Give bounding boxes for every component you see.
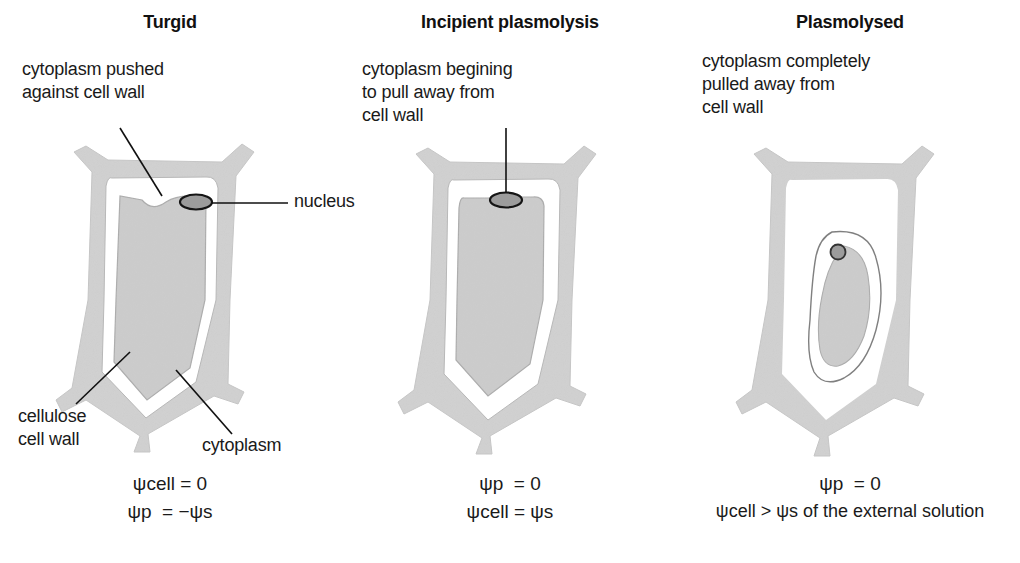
formula-line-2: ψp = −ψs: [0, 498, 340, 526]
nucleus-icon: [490, 193, 522, 208]
nucleus-icon: [180, 195, 212, 210]
plant-cell-plasmolysis-diagram: Turgid cytoplasm pushed against cell wal…: [0, 0, 1020, 563]
panel-incipient-plasmolysis: Incipient plasmolysis cytoplasm begining…: [340, 0, 680, 563]
formula-line-1: ψcell = 0: [0, 470, 340, 498]
formula-turgid: ψcell = 0 ψp = −ψs: [0, 470, 340, 525]
nucleus-icon: [831, 245, 846, 260]
label-cellulose-cell-wall: cellulose cell wall: [18, 405, 86, 451]
formula-line-1: ψp = 0: [680, 470, 1020, 498]
panel-turgid: Turgid cytoplasm pushed against cell wal…: [0, 0, 340, 563]
formula-line-2: ψcell = ψs: [340, 498, 680, 526]
formula-incipient-plasmolysis: ψp = 0 ψcell = ψs: [340, 470, 680, 525]
formula-plasmolysed: ψp = 0 ψcell > ψs of the external soluti…: [680, 470, 1020, 524]
panel-plasmolysed: Plasmolysed cytoplasm completely pulled …: [680, 0, 1020, 563]
formula-line-1: ψp = 0: [340, 470, 680, 498]
label-cytoplasm: cytoplasm: [202, 434, 281, 457]
formula-line-2: ψcell > ψs of the external solution: [680, 498, 1020, 524]
